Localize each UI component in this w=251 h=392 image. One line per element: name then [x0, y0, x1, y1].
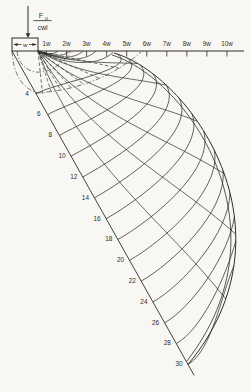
arc-characteristic	[118, 131, 205, 240]
outer-dashed-arc	[12, 51, 141, 93]
axis-tick-label: 10w	[221, 40, 233, 47]
axis-tick-label: 3w	[83, 40, 92, 47]
axis-tick-label: 7w	[163, 40, 172, 47]
axis-tick-label: 6w	[143, 40, 152, 47]
axis-tick-label: 4w	[103, 40, 112, 47]
slipline-field-svg: w F u cwl 46810121416182022242628301w2w3…	[0, 0, 251, 392]
axis-tick-label: 5w	[123, 40, 132, 47]
arc-characteristic	[153, 193, 230, 302]
diagonal-scale-label: 22	[129, 277, 137, 284]
force-fraction-denominator: cwl	[37, 24, 48, 31]
diagonal-scale-label: 18	[105, 235, 113, 242]
arc-characteristic	[176, 241, 236, 344]
arc-characteristic	[48, 58, 132, 114]
load-width-arrowhead-right-icon	[32, 43, 36, 46]
diagonal-scale-label: 10	[59, 152, 67, 159]
load-width-label: w	[22, 41, 28, 48]
arc-characteristic	[165, 217, 235, 323]
axis-tick-label: 2w	[63, 40, 72, 47]
labels-group: 46810121416182022242628301w2w3w4w5w6w7w8…	[25, 40, 233, 368]
arc-characteristic	[83, 85, 170, 177]
diagonal-scale-label: 30	[175, 360, 183, 367]
diagonal-scale-label: 8	[49, 131, 53, 138]
diagonal-scale-label: 6	[37, 110, 41, 117]
axis-tick-label: 9w	[203, 40, 212, 47]
diagonal-scale-label: 12	[70, 173, 78, 180]
slipline-field-diagram: w F u cwl 46810121416182022242628301w2w3…	[0, 0, 251, 392]
force-fraction-numerator-subscript: u	[45, 15, 48, 21]
envelope-group	[112, 53, 236, 365]
envelope-curve	[114, 53, 236, 365]
inner-envelope-curve	[112, 55, 231, 362]
diagonal-scale-label: 20	[117, 256, 125, 263]
dashed-fan-group	[12, 51, 141, 94]
diagonal-scale-label: 28	[164, 339, 172, 346]
force-fraction-numerator: F	[39, 11, 44, 20]
diagonal-scale-label: 14	[82, 194, 90, 201]
diagonal-scale-label: 24	[140, 298, 148, 305]
diagonal-scale-label: 26	[152, 319, 160, 326]
force-arrowhead-icon	[26, 33, 31, 38]
diagonal-scale-line	[12, 51, 194, 375]
load-width-arrowhead-left-icon	[13, 43, 17, 46]
diagonal-scale-label: 4	[25, 90, 29, 97]
arc-characteristic	[130, 150, 215, 260]
diagonal-scale-label: 16	[94, 215, 102, 222]
diagonal-scale-group	[12, 51, 194, 375]
axis-tick-label: 8w	[183, 40, 192, 47]
arc-characteristic	[71, 74, 156, 156]
axis-tick-label: 1w	[42, 40, 51, 47]
